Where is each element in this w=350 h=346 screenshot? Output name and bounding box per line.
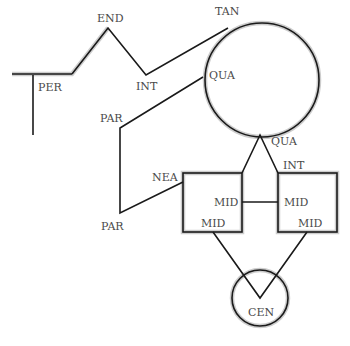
label-qua-left: QUA xyxy=(209,69,236,82)
mid-to-center-lines xyxy=(213,232,307,298)
label-tan: TAN xyxy=(215,5,240,18)
label-per: PER xyxy=(38,81,62,94)
label-mid-left-square-right: MID xyxy=(214,196,239,209)
label-qua-bottom: QUA xyxy=(271,135,298,148)
label-int-top: INT xyxy=(136,80,158,93)
label-end: END xyxy=(97,12,124,25)
label-cen: CEN xyxy=(248,306,274,319)
label-mid-left-square-bottom: MID xyxy=(201,217,226,230)
label-mid-right-square-left: MID xyxy=(284,196,309,209)
label-par-bottom: PAR xyxy=(101,220,124,233)
label-mid-right-square-bottom: MID xyxy=(298,217,323,230)
diagram-canvas: END TAN PER INT QUA PAR QUA INT NEA MID … xyxy=(0,0,350,346)
label-nea: NEA xyxy=(152,171,179,184)
label-int-right: INT xyxy=(283,159,305,172)
label-par-top: PAR xyxy=(100,112,123,125)
parallel-path xyxy=(120,77,203,213)
diagram-svg: END TAN PER INT QUA PAR QUA INT NEA MID … xyxy=(0,0,350,346)
